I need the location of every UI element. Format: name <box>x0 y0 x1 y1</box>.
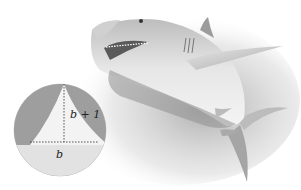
base-label: b <box>56 148 63 161</box>
shark-illustration <box>0 0 301 190</box>
figure: b + 1 b <box>0 0 301 190</box>
height-label: b + 1 <box>70 108 100 121</box>
